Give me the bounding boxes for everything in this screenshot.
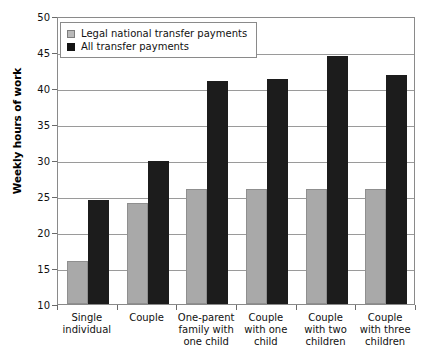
bar xyxy=(246,189,267,304)
x-axis-tick-mark xyxy=(57,305,58,310)
x-axis-tick-mark xyxy=(415,305,416,310)
x-axis-tick-mark xyxy=(355,305,356,310)
y-axis-tick-label: 50 xyxy=(10,12,50,23)
x-axis-category-label: Couplewith onechild xyxy=(236,312,296,349)
bar xyxy=(386,75,407,304)
gridline xyxy=(58,90,414,91)
legend-label-legal: Legal national transfer payments xyxy=(81,28,247,39)
bar xyxy=(267,79,288,304)
x-axis-category-label: Singleindividual xyxy=(57,312,117,336)
bar-chart: Weekly hours of work 101520253035404550 … xyxy=(0,0,431,363)
bar xyxy=(365,189,386,304)
legend-label-all: All transfer payments xyxy=(81,41,189,52)
x-axis-tick-mark xyxy=(296,305,297,310)
y-axis-tick-label: 35 xyxy=(10,120,50,131)
y-axis-tick-label: 10 xyxy=(10,300,50,311)
bar xyxy=(127,203,148,304)
bar xyxy=(67,261,88,304)
y-axis-tick-label: 45 xyxy=(10,48,50,59)
legend-swatch-all-icon xyxy=(67,43,75,51)
gridline xyxy=(58,234,414,235)
bar xyxy=(306,189,327,304)
y-axis-tick-label: 20 xyxy=(10,228,50,239)
x-axis-tick-mark xyxy=(236,305,237,310)
plot-area xyxy=(57,17,415,305)
gridline xyxy=(58,126,414,127)
chart-legend: Legal national transfer payments All tra… xyxy=(60,22,257,58)
bar xyxy=(88,200,109,304)
x-axis-category-label: One-parentfamily withone child xyxy=(176,312,236,349)
bar xyxy=(186,189,207,304)
x-axis-category-label: Couplewith threechildren xyxy=(355,312,415,349)
gridline xyxy=(58,162,414,163)
y-axis-title: Weekly hours of work xyxy=(11,51,23,211)
legend-swatch-legal-icon xyxy=(67,30,75,38)
bar xyxy=(207,81,228,304)
x-axis-category-label: Couplewith twochildren xyxy=(296,312,356,349)
y-axis-tick-label: 25 xyxy=(10,192,50,203)
x-axis-tick-mark xyxy=(176,305,177,310)
bar xyxy=(148,161,169,304)
bar xyxy=(327,56,348,304)
y-axis-tick-label: 40 xyxy=(10,84,50,95)
gridline xyxy=(58,198,414,199)
gridline xyxy=(58,270,414,271)
x-axis-category-label: Couple xyxy=(117,312,177,324)
y-axis-tick-label: 30 xyxy=(10,156,50,167)
y-axis-tick-label: 15 xyxy=(10,264,50,275)
legend-item: All transfer payments xyxy=(67,40,247,53)
legend-item: Legal national transfer payments xyxy=(67,27,247,40)
x-axis-tick-mark xyxy=(117,305,118,310)
